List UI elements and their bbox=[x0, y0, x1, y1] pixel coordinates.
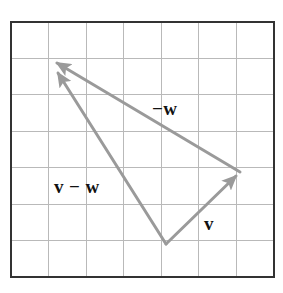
vector-label-v: v bbox=[204, 213, 214, 234]
vector-diagram-canvas: −w v − w v bbox=[0, 0, 283, 293]
vector-label-minus-w: −w bbox=[152, 98, 177, 119]
vector-label-v-minus-w: v − w bbox=[54, 176, 100, 197]
grid-background bbox=[11, 22, 274, 277]
vector-diagram-figure: −w v − w v bbox=[0, 0, 283, 293]
